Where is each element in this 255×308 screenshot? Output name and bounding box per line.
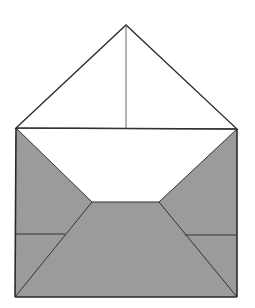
envelope-left-edge — [15, 128, 16, 297]
envelope-diagram — [0, 0, 255, 308]
envelope-flap — [16, 25, 237, 129]
